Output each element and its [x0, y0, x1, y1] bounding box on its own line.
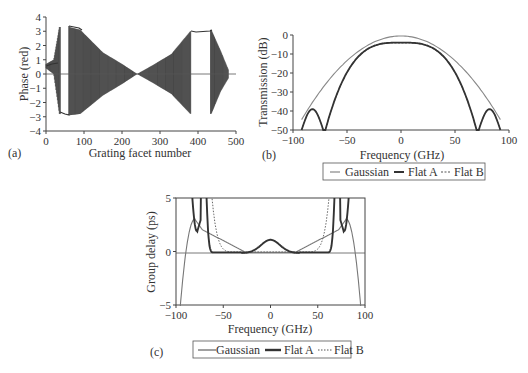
y-tick-label: −1 — [29, 82, 41, 94]
panel-label: (a) — [8, 146, 21, 160]
y-ticks: 0−10−20−30−40−50 — [271, 29, 293, 136]
x-tick-label: 50 — [312, 309, 324, 321]
y-tick-label: 2 — [36, 40, 42, 52]
x-axis-label: Frequency (GHz) — [228, 322, 312, 336]
legend-flat-b: Flat B — [334, 343, 364, 357]
y-tick-label: −30 — [271, 86, 289, 98]
figure: 43210−1−2−3−4 0100200300400500 Phase (re… — [0, 0, 528, 373]
y-tick-label: 1 — [36, 54, 42, 66]
y-tick-label: 0 — [36, 68, 42, 80]
x-axis-label: Frequency (GHz) — [360, 148, 444, 162]
x-tick-label: 400 — [190, 135, 207, 147]
panel-b: 0−10−20−30−40−50 −100−50050100 Transmiss… — [256, 29, 518, 180]
y-tick-label: 0 — [166, 246, 172, 258]
x-tick-label: 0 — [268, 309, 274, 321]
y-tick-label: 0 — [283, 29, 289, 41]
y-tick-label: −4 — [29, 125, 41, 137]
y-tick-label: 3 — [36, 25, 42, 37]
legend-flat-b: Flat B — [454, 165, 484, 179]
x-tick-label: 0 — [43, 135, 49, 147]
x-tick-label: 100 — [501, 134, 518, 146]
x-ticks: −100−50050100 — [282, 130, 518, 146]
x-ticks: 0100200300400500 — [43, 131, 245, 147]
phase-plateau-low-left — [60, 26, 69, 115]
phase-oscillation — [46, 27, 229, 115]
x-tick-label: 100 — [357, 309, 374, 321]
x-tick-label: 0 — [398, 134, 404, 146]
x-axis-label: Grating facet number — [89, 146, 192, 160]
y-tick-label: −2 — [29, 97, 41, 109]
y-tick-label: 5 — [166, 192, 172, 204]
panel-label: (c) — [150, 345, 163, 359]
x-tick-label: −100 — [165, 309, 188, 321]
series-flat-b — [302, 43, 501, 130]
legend-flat-a: Flat A — [284, 343, 314, 357]
phase-plateau-high-right — [191, 30, 212, 32]
legend-flat-a: Flat A — [408, 165, 438, 179]
x-tick-label: 50 — [450, 134, 462, 146]
panel-label: (b) — [262, 148, 276, 162]
y-axis-label: Transmission (dB) — [256, 37, 270, 126]
legend: Gaussian Flat A Flat B — [323, 163, 485, 180]
x-tick-label: −50 — [215, 309, 233, 321]
y-ticks: 50−5 — [159, 192, 176, 311]
legend: Gaussian Flat A Flat B — [193, 341, 364, 358]
x-tick-label: −50 — [338, 134, 356, 146]
series-gaussian — [180, 219, 361, 313]
y-ticks: 43210−1−2−3−4 — [29, 11, 46, 137]
y-axis-label: Group delay (ps) — [144, 211, 158, 292]
x-ticks: −100−50050100 — [165, 305, 374, 321]
y-axis-label: Phase (red) — [17, 47, 31, 101]
y-tick-label: −20 — [271, 67, 289, 79]
y-tick-label: −3 — [29, 111, 41, 123]
y-tick-label: 4 — [36, 11, 42, 23]
y-tick-label: −10 — [271, 48, 289, 60]
series-flat-a — [302, 43, 501, 130]
legend-gaussian: Gaussian — [216, 343, 260, 357]
panel-a: 43210−1−2−3−4 0100200300400500 Phase (re… — [8, 11, 245, 160]
x-tick-label: 500 — [228, 135, 245, 147]
legend-gaussian: Gaussian — [345, 165, 389, 179]
y-tick-label: −40 — [271, 105, 289, 117]
x-tick-label: −100 — [282, 134, 305, 146]
